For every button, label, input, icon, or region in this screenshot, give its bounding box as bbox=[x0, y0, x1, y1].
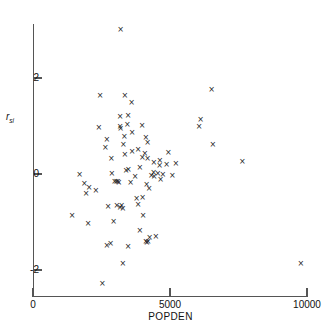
data-point: × bbox=[83, 190, 90, 197]
data-point: × bbox=[121, 92, 128, 99]
data-point: × bbox=[129, 148, 136, 155]
data-point: × bbox=[108, 155, 115, 162]
data-point: × bbox=[169, 172, 176, 179]
data-point: × bbox=[108, 170, 115, 177]
data-point: × bbox=[297, 260, 304, 267]
data-point: × bbox=[121, 133, 128, 140]
data-point: × bbox=[152, 233, 159, 240]
data-point: × bbox=[163, 161, 170, 168]
data-point: × bbox=[209, 141, 216, 148]
data-point: × bbox=[95, 124, 102, 131]
data-point: × bbox=[92, 187, 99, 194]
data-point: × bbox=[146, 185, 153, 192]
data-point: × bbox=[117, 125, 124, 132]
data-point: × bbox=[139, 122, 146, 129]
data-point: × bbox=[76, 171, 83, 178]
data-point: × bbox=[85, 220, 92, 227]
data-point: × bbox=[117, 26, 124, 33]
data-point: × bbox=[128, 99, 135, 106]
scatter-plot-figure: 20-2 0500010000 rsi POPDEN ×××××××××××××… bbox=[0, 0, 330, 325]
data-point: × bbox=[196, 123, 203, 130]
data-point: × bbox=[119, 205, 126, 212]
data-point: × bbox=[144, 139, 151, 146]
data-point: × bbox=[156, 162, 163, 169]
data-point: × bbox=[124, 121, 131, 128]
data-point: × bbox=[208, 86, 215, 93]
data-point: × bbox=[110, 218, 117, 225]
data-point: × bbox=[145, 238, 152, 245]
data-point: × bbox=[159, 171, 166, 178]
data-point: × bbox=[99, 280, 106, 287]
data-point: × bbox=[129, 129, 136, 136]
data-point: × bbox=[127, 179, 134, 186]
data-point: × bbox=[140, 212, 147, 219]
data-point: × bbox=[97, 92, 104, 99]
data-point: × bbox=[105, 203, 112, 210]
data-point: × bbox=[135, 201, 142, 208]
data-point: × bbox=[125, 112, 132, 119]
data-point: × bbox=[102, 144, 109, 151]
data-point: × bbox=[119, 260, 126, 267]
data-point: × bbox=[125, 243, 132, 250]
data-point: × bbox=[107, 240, 114, 247]
data-point: × bbox=[121, 151, 128, 158]
data-point: × bbox=[239, 158, 246, 165]
data-point: × bbox=[115, 179, 122, 186]
data-point: × bbox=[172, 160, 179, 167]
data-point: × bbox=[125, 166, 132, 173]
data-point: × bbox=[136, 227, 143, 234]
data-point: × bbox=[69, 212, 76, 219]
data-point: × bbox=[120, 141, 127, 148]
data-point-layer: ××××××××××××××××××××××××××××××××××××××××… bbox=[0, 0, 330, 325]
data-point: × bbox=[136, 164, 143, 171]
data-point: × bbox=[165, 149, 172, 156]
data-point: × bbox=[117, 113, 124, 120]
